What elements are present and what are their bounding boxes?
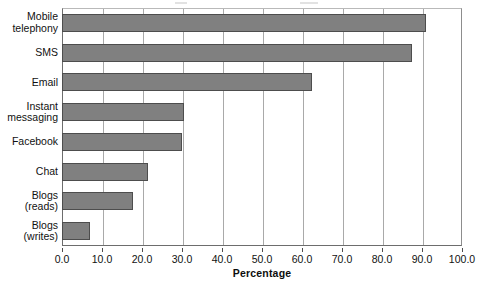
- x-tick-mark: [422, 248, 423, 252]
- x-axis-title: Percentage: [62, 267, 462, 279]
- category-label-sms: SMS: [0, 47, 58, 59]
- x-tick-label: 50.0: [240, 253, 284, 265]
- x-tick-mark: [62, 248, 63, 252]
- x-tick-mark: [262, 248, 263, 252]
- scan-artifact: [300, 2, 318, 4]
- x-tick-label: 10.0: [80, 253, 124, 265]
- x-tick-mark: [302, 248, 303, 252]
- x-tick-mark: [102, 248, 103, 252]
- category-label-instant-messaging: Instant messaging: [0, 101, 58, 124]
- x-tick-label: 40.0: [200, 253, 244, 265]
- bar-chat: [62, 163, 148, 181]
- x-tick-mark: [342, 248, 343, 252]
- category-label-blogs-reads: Blogs (reads): [0, 190, 58, 213]
- bar-sms: [62, 44, 412, 62]
- x-tick-label: 90.0: [400, 253, 444, 265]
- bar-blogs-writes: [62, 222, 90, 240]
- x-tick-label: 100.0: [440, 253, 483, 265]
- category-axis-labels: Mobile telephony SMS Email Instant messa…: [0, 8, 58, 246]
- category-label-blogs-writes: Blogs (writes): [0, 220, 58, 243]
- x-tick-mark: [222, 248, 223, 252]
- bar-facebook: [62, 133, 182, 151]
- category-label-chat: Chat: [0, 166, 58, 178]
- bar-instant-messaging: [62, 103, 184, 121]
- bars-layer: [62, 8, 463, 246]
- value-axis-ticks: 0.010.020.030.040.050.060.070.080.090.01…: [0, 248, 483, 264]
- x-tick-label: 30.0: [160, 253, 204, 265]
- x-tick-label: 60.0: [280, 253, 324, 265]
- scan-artifact: [175, 2, 187, 4]
- x-tick-mark: [382, 248, 383, 252]
- bar-blogs-reads: [62, 192, 133, 210]
- x-tick-mark: [182, 248, 183, 252]
- bar-mobile-telephony: [62, 14, 426, 32]
- x-tick-label: 20.0: [120, 253, 164, 265]
- x-tick-label: 80.0: [360, 253, 404, 265]
- x-tick-label: 0.0: [40, 253, 84, 265]
- category-label-email: Email: [0, 77, 58, 89]
- category-label-facebook: Facebook: [0, 136, 58, 148]
- bar-email: [62, 73, 312, 91]
- x-tick-mark: [462, 248, 463, 252]
- x-tick-mark: [142, 248, 143, 252]
- x-tick-label: 70.0: [320, 253, 364, 265]
- category-label-mobile-telephony: Mobile telephony: [0, 11, 58, 34]
- bar-chart: Mobile telephony SMS Email Instant messa…: [0, 0, 483, 286]
